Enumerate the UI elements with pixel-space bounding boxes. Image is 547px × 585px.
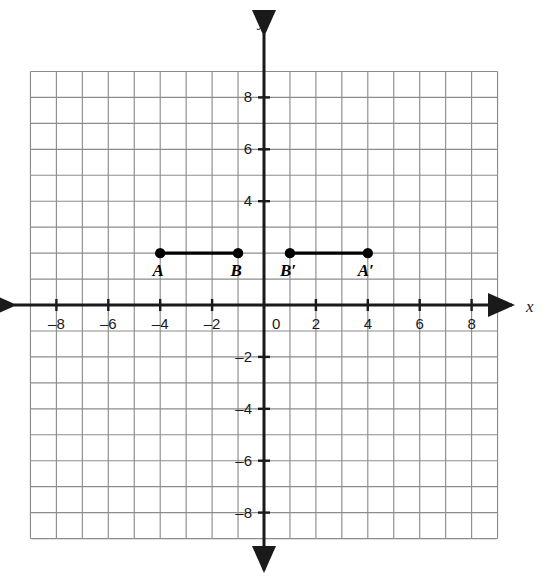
origin-label: 0: [272, 315, 280, 332]
x-axis-label: x: [525, 297, 534, 316]
coordinate-plane-figure: –8–6–4–22468864–2–4–6–8 ABB′A′ x y 0: [0, 0, 547, 585]
y-axis-tick-label: 6: [244, 140, 252, 157]
x-axis-tick-label: –2: [204, 315, 221, 332]
x-axis-tick-label: –8: [48, 315, 65, 332]
point-label: A′: [357, 261, 374, 280]
point-label: B′: [279, 261, 296, 280]
y-axis-tick-label: 4: [244, 192, 252, 209]
y-axis-tick-label: –2: [235, 348, 252, 365]
point-label: A: [152, 261, 164, 280]
y-axis-label: y: [256, 11, 266, 30]
x-axis-tick-label: 6: [416, 315, 424, 332]
point-label: B: [229, 261, 241, 280]
x-axis-tick-label: –6: [100, 315, 117, 332]
x-axis-tick-label: –4: [152, 315, 169, 332]
y-axis-tick-label: –4: [235, 400, 252, 417]
y-axis-tick-label: 8: [244, 88, 252, 105]
plotted-point: [155, 248, 165, 258]
plotted-point: [363, 248, 373, 258]
y-axis-tick-label: –8: [235, 504, 252, 521]
axis-lines: [14, 34, 512, 570]
y-axis-tick-label: –6: [235, 452, 252, 469]
plotted-point: [233, 248, 243, 258]
x-axis-tick-label: 8: [467, 315, 475, 332]
x-axis-tick-label: 4: [364, 315, 372, 332]
plotted-point: [285, 248, 295, 258]
coordinate-plane-svg: –8–6–4–22468864–2–4–6–8 ABB′A′ x y 0: [0, 0, 547, 585]
x-axis-tick-label: 2: [312, 315, 320, 332]
